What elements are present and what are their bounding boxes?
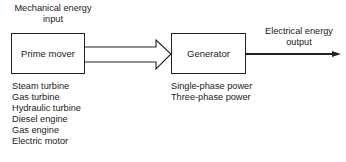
list-item: Gas engine bbox=[12, 125, 81, 136]
mechanical-transfer-arrow bbox=[84, 40, 171, 69]
generator-outputs-list: Single-phase power Three-phase power bbox=[171, 81, 252, 103]
list-item: Three-phase power bbox=[171, 92, 252, 103]
input-label: Mechanical energy input bbox=[4, 3, 102, 25]
output-arrowhead-icon bbox=[332, 51, 341, 57]
prime-mover-label: Prime mover bbox=[21, 48, 75, 59]
output-label-line2: output bbox=[254, 37, 344, 48]
list-item: Hydraulic turbine bbox=[12, 103, 81, 114]
generator-block: Generator bbox=[171, 33, 246, 74]
list-item: Steam turbine bbox=[12, 81, 81, 92]
list-item: Gas turbine bbox=[12, 92, 81, 103]
list-item: Single-phase power bbox=[171, 81, 252, 92]
prime-mover-types-list: Steam turbine Gas turbine Hydraulic turb… bbox=[12, 81, 81, 147]
output-label: Electrical energy output bbox=[254, 26, 344, 48]
prime-mover-block: Prime mover bbox=[11, 33, 85, 74]
input-label-line1: Mechanical energy bbox=[4, 3, 102, 14]
output-label-line1: Electrical energy bbox=[254, 26, 344, 37]
input-label-line2: input bbox=[4, 14, 102, 25]
list-item: Electric motor bbox=[12, 136, 81, 147]
generator-label: Generator bbox=[187, 48, 230, 59]
list-item: Diesel engine bbox=[12, 114, 81, 125]
